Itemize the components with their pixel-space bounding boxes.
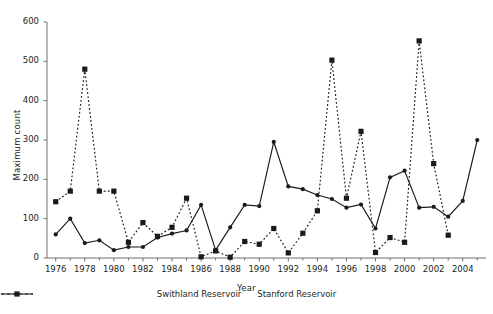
series-line-1 xyxy=(56,41,448,257)
y-tick-label: 500 xyxy=(13,55,39,65)
data-point xyxy=(53,199,58,204)
data-point xyxy=(112,248,116,252)
chart-legend: Swithland Reservoir Stanford Reservoir xyxy=(0,289,493,299)
data-point xyxy=(242,239,247,244)
data-point xyxy=(228,255,233,260)
data-point xyxy=(82,67,87,72)
data-point xyxy=(446,233,451,238)
data-point xyxy=(169,225,174,230)
y-tick-label: 100 xyxy=(13,213,39,223)
data-point xyxy=(461,199,465,203)
y-tick-label: 400 xyxy=(13,95,39,105)
data-point xyxy=(199,203,203,207)
data-point xyxy=(432,205,436,209)
data-point xyxy=(475,138,479,142)
y-tick-label: 600 xyxy=(13,16,39,26)
data-point xyxy=(301,187,305,191)
y-tick-label: 300 xyxy=(13,134,39,144)
data-point xyxy=(315,208,320,213)
data-point xyxy=(184,196,189,201)
data-point xyxy=(373,226,377,230)
data-point xyxy=(344,206,348,210)
data-point xyxy=(257,204,261,208)
data-point xyxy=(126,240,131,245)
legend-swatch-dashed-square xyxy=(0,289,34,299)
data-point xyxy=(140,220,145,225)
data-point xyxy=(228,225,232,229)
data-point xyxy=(358,129,363,134)
legend-label-stanford: Stanford Reservoir xyxy=(257,289,336,299)
legend-item-swithland: Swithland Reservoir xyxy=(157,289,241,299)
legend-item-stanford: Stanford Reservoir xyxy=(257,289,336,299)
series-line-0 xyxy=(56,140,478,250)
data-point xyxy=(286,250,291,255)
data-point xyxy=(141,245,145,249)
data-point xyxy=(272,140,276,144)
data-point xyxy=(68,189,73,194)
data-point xyxy=(373,250,378,255)
data-point xyxy=(243,203,247,207)
data-point xyxy=(417,38,422,43)
data-point xyxy=(300,231,305,236)
data-point xyxy=(329,58,334,63)
data-point xyxy=(403,169,407,173)
data-point xyxy=(54,232,58,236)
data-point xyxy=(126,245,130,249)
data-point xyxy=(213,248,218,253)
data-point xyxy=(198,254,203,259)
data-point xyxy=(402,240,407,245)
data-point xyxy=(286,184,290,188)
legend-label-swithland: Swithland Reservoir xyxy=(157,289,241,299)
x-tick-label: 2004 xyxy=(443,264,483,274)
data-point xyxy=(111,189,116,194)
data-point xyxy=(83,241,87,245)
y-tick-label: 0 xyxy=(13,252,39,262)
data-point xyxy=(359,202,363,206)
data-point xyxy=(155,234,160,239)
data-point xyxy=(257,242,262,247)
data-point xyxy=(271,226,276,231)
data-point xyxy=(387,235,392,240)
data-point xyxy=(68,217,72,221)
data-point xyxy=(170,232,174,236)
y-tick-label: 200 xyxy=(13,173,39,183)
data-point xyxy=(330,197,334,201)
data-point xyxy=(344,196,349,201)
chart-container: Maximum count Year 010020030040050060019… xyxy=(0,0,493,314)
data-point xyxy=(97,238,101,242)
data-point xyxy=(417,206,421,210)
data-point xyxy=(431,161,436,166)
data-point xyxy=(184,228,188,232)
data-point xyxy=(97,189,102,194)
data-point xyxy=(446,215,450,219)
data-point xyxy=(388,175,392,179)
